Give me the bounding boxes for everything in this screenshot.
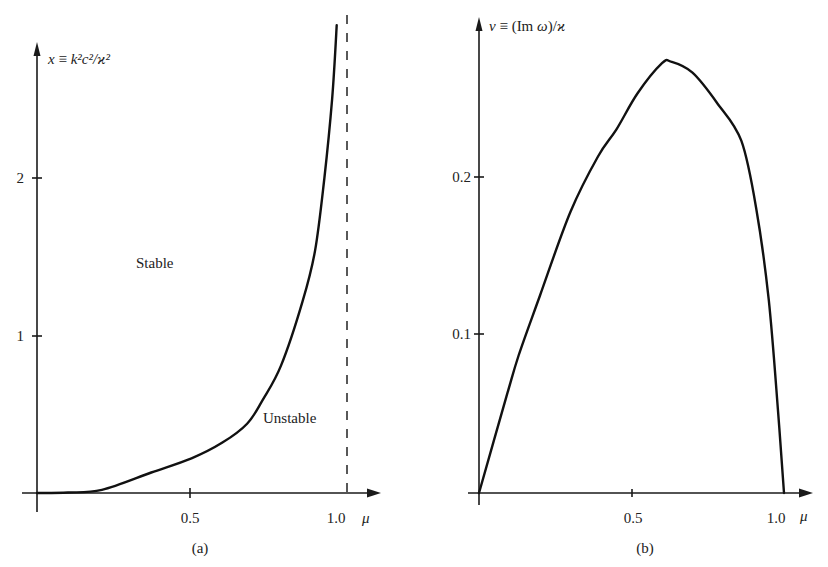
panel-b: 0.5 1.0 0.2 0.1 ν ≡ (Im ω)/ϰ μ (b): [452, 17, 813, 557]
unstable-region-label: Unstable: [263, 410, 317, 426]
y-tick-label: 1: [17, 328, 25, 344]
growth-rate-curve: [479, 60, 784, 493]
panel-a: 0.5 1.0 2 1 x ≡ k²c²/ϰ² μ Stable Unstabl…: [17, 15, 382, 557]
x-axis-title-b: μ: [799, 508, 808, 524]
caption-a: (a): [192, 540, 209, 557]
caption-b: (b): [636, 540, 654, 557]
y-tick-label: 0.1: [452, 326, 471, 342]
figure: 0.5 1.0 2 1 x ≡ k²c²/ϰ² μ Stable Unstabl…: [0, 0, 828, 567]
x-tick-label: 1.0: [327, 510, 346, 526]
y-tick-label: 2: [17, 170, 25, 186]
y-axis-arrow-icon: [34, 42, 41, 56]
x-tick-label: 0.5: [624, 510, 643, 526]
x-axis-title-a: μ: [361, 510, 370, 526]
x-axis-arrow-icon: [367, 489, 381, 498]
stable-region-label: Stable: [136, 255, 174, 271]
y-axis-arrow-icon: [476, 17, 483, 31]
x-tick-label: 1.0: [767, 510, 786, 526]
y-tick-label: 0.2: [452, 169, 471, 185]
x-tick-label: 0.5: [181, 510, 200, 526]
x-axis-arrow-icon: [799, 489, 813, 498]
y-axis-title-b: ν ≡ (Im ω)/ϰ: [489, 18, 566, 35]
y-axis-title-a: x ≡ k²c²/ϰ²: [47, 51, 111, 67]
